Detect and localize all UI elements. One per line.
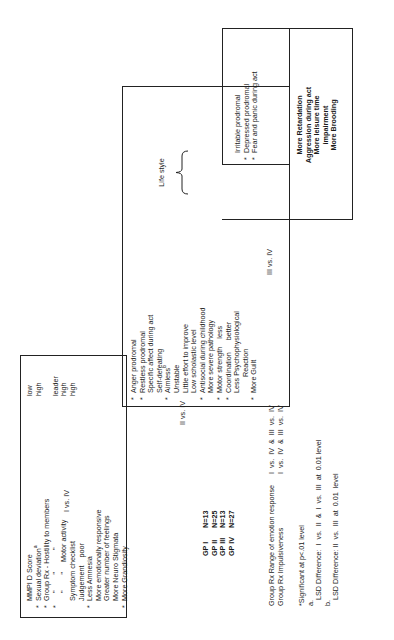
group-rx-comparison: I vs. IV & III vs. IV (276, 405, 285, 474)
footnote-b-text: LSD Difference: II vs. III at 0.01 level (332, 440, 341, 606)
box-iii-vs-iv-top-edge (222, 28, 223, 86)
bullet-marker: * (164, 393, 173, 400)
list-item: *More Guilt (250, 307, 259, 400)
label-ii-vs-iv: II vs. IV (179, 401, 188, 425)
group-rx-row: Group Rx ImpulsivenessI vs. IV & III vs.… (277, 405, 286, 606)
item-text: More Grandiosity (120, 546, 129, 601)
group-sizes: GP IN=13GP IIN=25GP IIIN=13GP IVN=27 (202, 511, 236, 556)
box-iii-vs-iv-list: More RetardationAggression during actMor… (296, 50, 339, 200)
list-item: More Brooding (330, 50, 339, 200)
footnote-significance: *Significant at p<.01 level (298, 440, 307, 606)
rotated-document-page: MMPI D Scorelow*Sexual deviationahigh*Gr… (0, 0, 394, 640)
group-row: GP IVN=27 (228, 511, 237, 556)
item-value: high (35, 382, 44, 396)
bullet-marker: * (250, 393, 259, 400)
label-iii-vs-iv: III vs. IV (266, 249, 275, 275)
bullet-marker: * (52, 601, 61, 608)
curly-brace-icon (170, 150, 190, 195)
bullet-marker: * (225, 393, 234, 400)
life-style-label: Life style (158, 150, 167, 195)
item-text: More Guilt (249, 360, 258, 393)
group-label: GP IV (228, 528, 237, 556)
label-i-vs-iv: I vs. IV (63, 490, 72, 512)
group-rx-rows: Group Rx Range of emotion responseI vs. … (268, 405, 285, 606)
group-n: N=27 (227, 511, 236, 528)
box-i-vs-iv-list: MMPI D Scorelow*Sexual deviationahigh*Gr… (26, 368, 129, 608)
bullet-marker: * (139, 393, 148, 400)
item-value: high (69, 382, 78, 396)
box-ii-vs-iv-list: *Anger prodromal*Restless prodromalSpeci… (130, 307, 259, 400)
footnote-marker: a (32, 545, 38, 548)
footnotes: *Significant at p<.01 level a. LSD Diffe… (298, 440, 341, 606)
footnote-marker: b (161, 365, 167, 368)
footnote-a-text: LSD Difference: I vs. II & I vs. III at … (315, 440, 324, 606)
group-rx-label: Group Rx Impulsiveness (277, 474, 286, 606)
bullet-marker: * (199, 393, 208, 400)
bullet-marker: * (86, 601, 95, 608)
bullet-marker: * (121, 601, 130, 608)
